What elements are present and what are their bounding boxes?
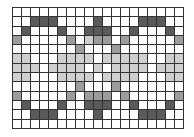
grid-cell	[39, 7, 48, 16]
grid-cell	[147, 109, 156, 118]
grid-cell	[102, 91, 111, 100]
grid-cell	[12, 72, 21, 81]
grid-cell	[174, 7, 183, 16]
grid-cell	[84, 53, 93, 62]
grid-cell	[21, 7, 30, 16]
grid-cell	[39, 81, 48, 90]
grid-cell	[84, 81, 93, 90]
grid-cell	[147, 53, 156, 62]
grid-cell	[30, 53, 39, 62]
grid-cell	[75, 100, 84, 109]
grid-cell	[111, 44, 120, 53]
grid-cell	[75, 26, 84, 35]
grid-cell	[66, 16, 75, 25]
grid-cell	[111, 63, 120, 72]
grid-cell	[21, 53, 30, 62]
grid-cell	[84, 63, 93, 72]
grid-cell	[120, 72, 129, 81]
grid-cell	[120, 119, 129, 128]
grid-cell	[138, 109, 147, 118]
grid-cell	[138, 63, 147, 72]
grid-cell	[138, 91, 147, 100]
grid-cell	[30, 35, 39, 44]
grid-cell	[111, 35, 120, 44]
grid-cell	[48, 119, 57, 128]
grid-cell	[174, 26, 183, 35]
grid-cell	[84, 119, 93, 128]
grid-cell	[21, 100, 30, 109]
grid-cell	[111, 16, 120, 25]
grid-cell	[138, 7, 147, 16]
grid-cell	[174, 16, 183, 25]
grid-cell	[120, 35, 129, 44]
grid-cell	[66, 26, 75, 35]
grid-cell	[165, 44, 174, 53]
grid-cell	[84, 100, 93, 109]
grid-cell	[174, 91, 183, 100]
grid-cell	[39, 16, 48, 25]
grid-cell	[48, 35, 57, 44]
grid-cell	[21, 91, 30, 100]
grid-cell	[147, 63, 156, 72]
grid-cell	[30, 81, 39, 90]
grid-cell	[156, 81, 165, 90]
grid-cell	[93, 72, 102, 81]
grid-cell	[93, 91, 102, 100]
grid-cell	[30, 119, 39, 128]
grid-cell	[111, 72, 120, 81]
canvas	[0, 0, 194, 137]
grid-cell	[147, 91, 156, 100]
grid-cell	[75, 44, 84, 53]
grid-cell	[174, 44, 183, 53]
grid-cell	[129, 63, 138, 72]
grid-cell	[129, 119, 138, 128]
grid-cell	[39, 53, 48, 62]
grid-cell	[102, 7, 111, 16]
grid-cell	[12, 16, 21, 25]
grid-cell	[174, 35, 183, 44]
grid-cell	[66, 53, 75, 62]
grid-cell	[111, 53, 120, 62]
grid-cell	[111, 81, 120, 90]
grid-cell	[147, 100, 156, 109]
grid-cell	[48, 63, 57, 72]
grid-cell	[93, 53, 102, 62]
grid-cell	[48, 109, 57, 118]
grid-cell	[21, 63, 30, 72]
grid-cell	[48, 81, 57, 90]
grid-cell	[174, 63, 183, 72]
grid-cell	[93, 100, 102, 109]
grid-cell	[12, 26, 21, 35]
grid-cell	[12, 81, 21, 90]
grid-cell	[165, 72, 174, 81]
grid-cell	[147, 35, 156, 44]
grid-cell	[39, 119, 48, 128]
grid-cell	[147, 44, 156, 53]
grid-cell	[174, 53, 183, 62]
grid-cell	[48, 53, 57, 62]
grid-cell	[165, 26, 174, 35]
grid-cell	[57, 109, 66, 118]
grid-cell	[147, 16, 156, 25]
grid-cell	[129, 7, 138, 16]
grid-cell	[165, 35, 174, 44]
grid-cell	[84, 91, 93, 100]
grid-cell	[93, 26, 102, 35]
grid-cell	[156, 91, 165, 100]
grid-cell	[111, 119, 120, 128]
grid-cell	[147, 26, 156, 35]
grid-cell	[12, 91, 21, 100]
grid-cell	[102, 119, 111, 128]
grid-cell	[174, 100, 183, 109]
grid-cell	[120, 81, 129, 90]
grid-cell	[66, 91, 75, 100]
grid-cell	[102, 44, 111, 53]
grid-cell	[57, 119, 66, 128]
grid-cell	[57, 63, 66, 72]
grid-cell	[102, 35, 111, 44]
grid-cell	[138, 100, 147, 109]
grid-cell	[120, 63, 129, 72]
grid-cell	[120, 109, 129, 118]
grid-cell	[93, 7, 102, 16]
grid-cell	[174, 72, 183, 81]
